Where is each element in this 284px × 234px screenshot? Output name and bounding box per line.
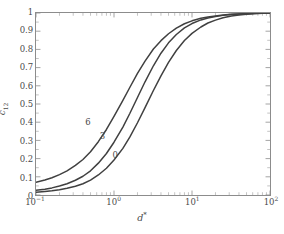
x-axis-label-superscript: * [143,211,147,219]
chart-figure: 00.10.20.30.40.50.60.70.80.91 c12 10−110… [0,0,284,234]
plot-area [35,12,271,196]
x-tick-label: 101 [185,198,200,207]
curve-label-0: 0 [113,150,118,159]
y-axis-label-subscript: 12 [2,103,9,111]
y-axis-label: c12 [0,103,7,116]
x-tick-label: 102 [264,198,279,207]
plot-canvas [36,13,270,195]
y-tick-label: 0.2 [1,155,33,164]
curve-series-6 [36,13,270,182]
y-tick-label: 0.4 [1,118,33,127]
x-axis-label: d* [0,212,284,223]
y-axis-label-text: c [0,110,7,115]
curve-series-0 [36,13,270,192]
y-tick-label: 0.3 [1,137,33,146]
curve-label-6: 6 [85,118,90,127]
y-tick-label: 0.7 [1,63,33,72]
y-tick-label: 0.9 [1,26,33,35]
curve-label-3: 3 [100,132,105,141]
curve-series-3 [36,13,270,190]
x-tick-label: 10−1 [25,198,45,207]
y-tick-label: 1 [1,8,33,17]
data-curves [36,13,270,192]
y-tick-label: 0.1 [1,173,33,182]
y-tick-label: 0.8 [1,45,33,54]
y-tick-label: 0.6 [1,81,33,90]
x-tick-label: 100 [106,198,121,207]
